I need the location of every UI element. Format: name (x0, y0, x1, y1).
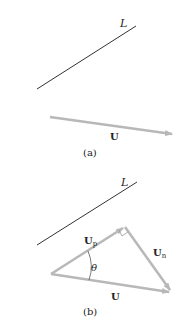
vector-u-p-label: Up (84, 235, 98, 248)
projection-diagram: L U (a) L Up Un U θ (b) (0, 0, 186, 321)
line-l-label: L (120, 176, 128, 189)
vector-u-label: U (111, 291, 120, 302)
vector-u-n-label: Un (153, 247, 167, 260)
vector-u-label: U (110, 131, 119, 142)
line-l (37, 26, 136, 89)
vector-u (51, 274, 169, 292)
line-l-label: L (119, 17, 127, 30)
panel-b: L Up Un U θ (b) (37, 176, 170, 317)
theta-label: θ (91, 262, 97, 273)
panel-a: L U (a) (37, 17, 172, 158)
caption-a: (a) (83, 147, 97, 158)
caption-b: (b) (83, 306, 97, 317)
